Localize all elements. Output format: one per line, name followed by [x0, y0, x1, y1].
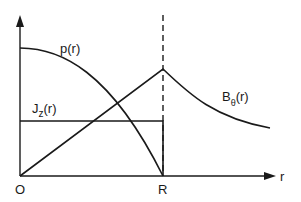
x-axis: [20, 172, 276, 180]
current-density-curve: [20, 121, 163, 176]
magnetic-field-curve: [20, 69, 270, 176]
current-density-label: Jz(r): [32, 101, 57, 119]
radius-label: R: [158, 182, 167, 197]
y-axis: [16, 15, 24, 176]
pressure-label: p(r): [60, 41, 80, 56]
origin-label: O: [15, 182, 25, 197]
plasma-profile-diagram: p(r) Jz(r) Bθ(r) O R r: [0, 0, 301, 202]
x-axis-arrow-icon: [264, 172, 276, 180]
y-axis-arrow-icon: [16, 15, 24, 27]
magnetic-field-label: Bθ(r): [222, 89, 249, 108]
x-axis-label: r: [280, 169, 285, 184]
